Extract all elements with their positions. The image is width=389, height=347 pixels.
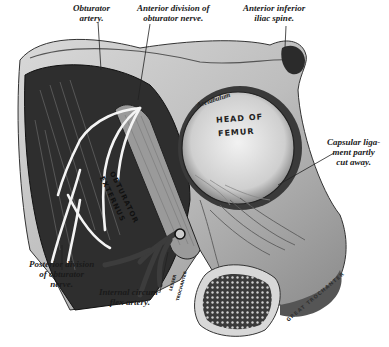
label-anterior-division-obturator-nerve: Anterior division of obturator nerve.: [137, 3, 210, 23]
label-capsular-ligament: Capsular liga- ment partly cut away.: [327, 137, 380, 167]
label-internal-circumflex-artery: Internal circum- flex artery.: [99, 287, 161, 307]
label-line: Obturator: [73, 3, 110, 13]
label-line: Posterior division: [29, 259, 94, 269]
label-line: flex artery.: [99, 297, 161, 307]
label-line: nerve.: [29, 279, 94, 289]
label-line: iliac spine.: [243, 13, 305, 23]
artery-lumen: [175, 229, 185, 239]
label-line: Anterior division of: [137, 3, 210, 13]
label-line: Internal circum-: [99, 287, 161, 297]
label-line: cut away.: [327, 157, 380, 167]
label-obturator-artery: Obturator artery.: [73, 3, 110, 23]
label-line: Anterior inferior: [243, 3, 305, 13]
label-line: Capsular liga-: [327, 137, 380, 147]
label-posterior-division-obturator-nerve: Posterior division of obturator nerve.: [29, 259, 94, 289]
label-line: obturator nerve.: [137, 13, 210, 23]
label-line: of obturator: [29, 269, 94, 279]
label-anterior-inferior-iliac-spine: Anterior inferior iliac spine.: [243, 3, 305, 23]
label-line: ment partly: [327, 147, 380, 157]
label-line: artery.: [73, 13, 110, 23]
hip-joint-illustration: [0, 0, 389, 347]
